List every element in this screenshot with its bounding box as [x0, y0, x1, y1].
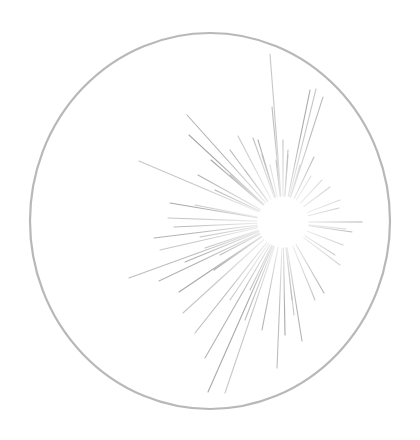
starburst-center-glow: [193, 132, 373, 312]
sketch-canvas: [0, 0, 420, 440]
